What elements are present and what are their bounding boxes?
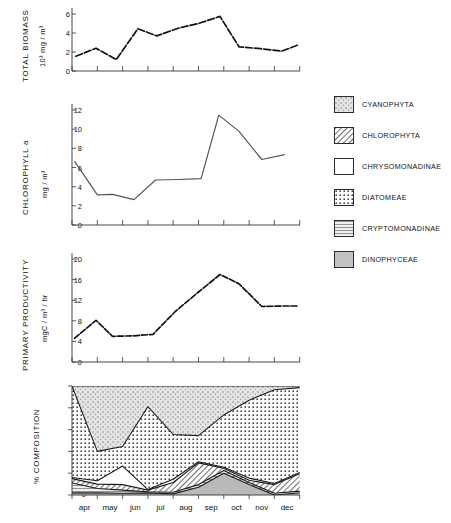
panel-chlorophyll-a: CHLOROPHYLL a mg / m³ 12 10 8 6 4 2 0	[0, 96, 330, 244]
panel3-y-axis-unit: mgC / m³ / hr	[40, 276, 49, 361]
figure-root: TOTAL BIOMASS 10³ mg / m³ 6 4 2 0	[0, 0, 451, 523]
x-label-sep: sep	[205, 503, 218, 512]
panel3-series-line	[75, 275, 299, 339]
panel4-svg	[72, 386, 300, 501]
panel4-stacked-areas	[72, 386, 300, 495]
x-axis-month-labels: apr may jun jul aug sep oct nov dec	[72, 503, 300, 515]
panel1-ytick: 4	[66, 29, 70, 38]
legend-swatch-chrysomonadinae	[334, 158, 354, 175]
panel3-y-ticks	[72, 259, 76, 362]
legend-label-diatomeae: DIATOMEAE	[362, 193, 407, 202]
panel1-series-line	[76, 16, 299, 59]
panel2-y-axis-label: CHLOROPHYLL a	[22, 120, 30, 235]
panel1-ytick: 2	[66, 48, 70, 57]
legend-label-chrysomonadinae: CHRYSOMONADINAE	[362, 162, 441, 171]
panel2-plot-area	[72, 104, 300, 230]
legend-swatch-diatomeae-fill	[335, 190, 353, 205]
panel-total-biomass: TOTAL BIOMASS 10³ mg / m³ 6 4 2 0	[0, 0, 330, 95]
panel-primary-productivity: PRIMARY PRODUCTIVITY mgC / m³ / hr 20 16…	[0, 246, 330, 381]
panel1-x-ticks	[72, 66, 300, 71]
legend-swatch-cyanophyta	[334, 96, 354, 113]
panel1-ytick: 6	[66, 10, 70, 19]
panel3-y-axis-label: PRIMARY PRODUCTIVITY	[22, 256, 30, 374]
panel1-y-ticks	[72, 14, 76, 71]
panel1-ytick: 0	[66, 67, 70, 76]
panel2-svg	[72, 104, 300, 230]
panel3-plot-area	[72, 253, 300, 365]
legend-label-cyanophyta: CYANOPHYTA	[362, 100, 414, 109]
legend-swatch-chlorophyta	[334, 127, 354, 144]
panel4-x-ticks	[72, 495, 300, 499]
panel3-x-ticks	[72, 357, 300, 362]
panel3-svg	[72, 253, 300, 365]
panel2-series-line	[75, 115, 285, 200]
legend-swatch-cyanophyta-fill	[335, 97, 353, 112]
x-label-apr: apr	[79, 503, 91, 512]
panel2-y-ticks	[72, 110, 76, 225]
panel-composition: % COMPOSITION 100 80 60 40 20 0	[0, 382, 330, 523]
panel1-plot-area	[72, 8, 300, 78]
x-label-dec: dec	[281, 503, 294, 512]
x-label-jul: jul	[157, 503, 165, 512]
x-label-jun: jun	[130, 503, 141, 512]
x-label-nov: nov	[255, 503, 268, 512]
legend-swatch-cryptomonadinae-fill	[335, 221, 353, 236]
panel1-y-tick-labels: 6 4 2 0	[44, 0, 70, 95]
legend-label-cryptomonadinae: CRYPTOMONADINAE	[362, 224, 440, 233]
panel1-y-axis-label: TOTAL BIOMASS	[22, 6, 30, 86]
x-label-oct: oct	[231, 503, 242, 512]
legend-label-dinophyceae: DINOPHYCEAE	[362, 255, 418, 264]
legend-swatch-dinophyceae	[334, 251, 354, 268]
legend-label-chlorophyta: CHLOROPHYTA	[362, 131, 420, 140]
legend-swatch-cryptomonadinae	[334, 220, 354, 237]
panel4-y-axis-label: % COMPOSITION	[33, 396, 41, 496]
x-label-aug: aug	[179, 503, 192, 512]
legend-swatch-diatomeae	[334, 189, 354, 206]
legend-swatch-chlorophyta-fill	[335, 128, 353, 143]
panel1-svg	[72, 8, 300, 78]
panel2-x-ticks	[72, 220, 300, 225]
x-label-may: may	[102, 503, 117, 512]
panel2-y-axis-unit: mg / m³	[40, 144, 49, 224]
panel4-plot-area	[72, 386, 300, 501]
